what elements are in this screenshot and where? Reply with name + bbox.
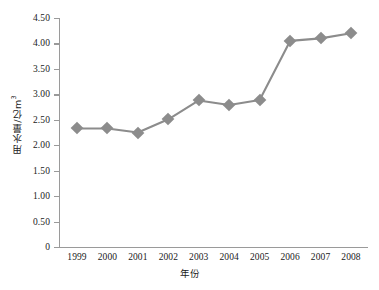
y-axis-title: 用水量/亿m3: [10, 95, 24, 154]
series-polyline: [77, 33, 351, 132]
series-line-layer: [0, 0, 379, 290]
x-axis-title: 年份: [0, 266, 379, 280]
line-chart: 00.501.001.502.002.503.003.504.004.50 19…: [0, 0, 379, 290]
y-axis-title-exponent: 3: [10, 95, 18, 99]
y-axis-title-text: 用水量/亿m: [12, 99, 23, 153]
